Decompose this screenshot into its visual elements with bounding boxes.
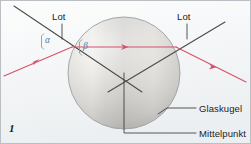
label-glaskugel: Glaskugel xyxy=(199,103,242,114)
label-lot-left: Lot xyxy=(52,11,66,22)
diagram-canvas xyxy=(0,0,251,144)
label-mittelpunkt: Mittelpunkt xyxy=(199,128,246,139)
figure-refraction-glass-sphere: Lot Lot Glaskugel Mittelpunkt α β 1 xyxy=(0,0,251,144)
label-lot-right: Lot xyxy=(177,11,191,22)
label-angle-alpha: α xyxy=(45,35,50,45)
figure-number: 1 xyxy=(9,122,15,134)
label-angle-beta: β xyxy=(83,41,88,51)
